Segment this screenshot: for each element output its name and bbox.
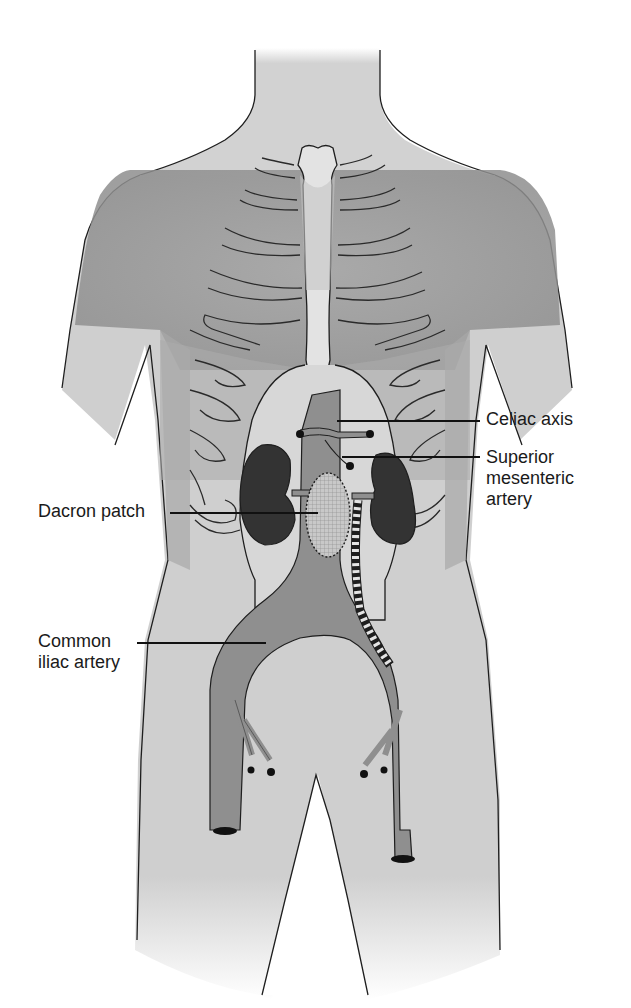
label-dacron-patch: Dacron patch (38, 501, 145, 522)
dacron-patch (306, 473, 350, 557)
label-celiac-axis: Celiac axis (486, 409, 573, 430)
label-superior-mesenteric-artery: Superior mesenteric artery (486, 447, 574, 510)
label-common-iliac-artery: Common iliac artery (38, 631, 120, 673)
